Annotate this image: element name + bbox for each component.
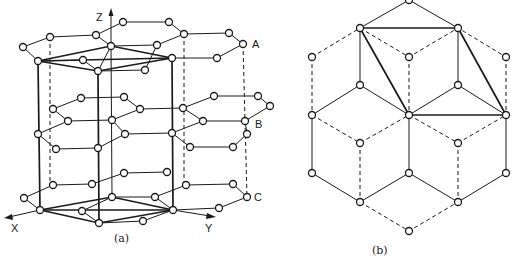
caption-b: (b) — [372, 244, 388, 257]
atoms-b — [309, 0, 510, 235]
x-axis: X — [4, 210, 40, 234]
layer-c-bonds — [24, 172, 247, 223]
figure-b: (b) — [309, 0, 510, 257]
layer-label-c: C — [254, 191, 262, 203]
atoms-a — [20, 19, 274, 227]
z-axis-label: Z — [96, 11, 103, 23]
layer-b-bonds — [38, 96, 270, 149]
z-axis: Z — [96, 8, 114, 46]
figure-canvas: Z — [0, 0, 513, 263]
x-axis-label: X — [11, 222, 19, 234]
layer-label-b: B — [255, 118, 262, 130]
layer-a-bonds — [23, 22, 243, 71]
y-axis: Y — [173, 210, 216, 234]
y-axis-label: Y — [205, 222, 213, 234]
figure-a: Z — [4, 8, 274, 245]
layer-label-a: A — [252, 38, 260, 50]
caption-a: (a) — [114, 232, 129, 245]
